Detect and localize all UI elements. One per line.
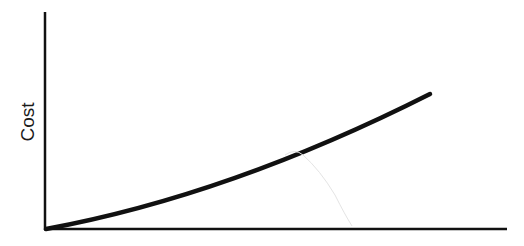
cost-curve (46, 94, 430, 229)
y-axis-label: Cost (18, 102, 38, 142)
chart-canvas (0, 0, 524, 246)
faint-artifact (285, 152, 352, 227)
